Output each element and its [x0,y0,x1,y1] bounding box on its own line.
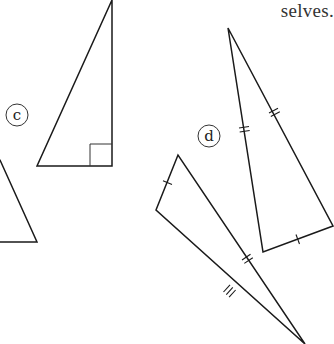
triple-tick-mark-lower [224,285,236,297]
triangle-d-tall [228,28,333,252]
partial-triangle-edges [0,160,37,242]
label-c: c [6,104,28,126]
caption-text: selves. [281,0,334,22]
triangle-c [37,0,112,166]
triangle-d-tall-outline [228,28,333,252]
label-c-text: c [13,106,21,124]
right-angle-marker [90,144,112,166]
triangle-c-outline [37,0,112,166]
partial-triangle-left [0,160,37,242]
triangle-d-long-outline [156,155,305,344]
triangle-d-long [156,155,305,344]
geometry-diagram: c d [0,0,334,344]
label-d: d [198,125,220,147]
label-d-text: d [204,127,214,145]
